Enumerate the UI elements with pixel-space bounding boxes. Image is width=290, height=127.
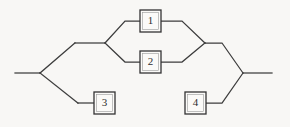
- block-3[interactable]: 3: [94, 92, 115, 114]
- diagram-canvas: 1 2 3 4: [0, 0, 290, 127]
- block-2-label: 2: [148, 55, 154, 67]
- block-1-label: 1: [148, 14, 154, 26]
- block-1[interactable]: 1: [140, 10, 161, 32]
- reliability-block-diagram: 1 2 3 4: [0, 0, 290, 127]
- block-3-label: 3: [102, 96, 108, 108]
- block-2[interactable]: 2: [140, 51, 161, 73]
- block-4-label: 4: [193, 96, 199, 108]
- block-4[interactable]: 4: [185, 92, 206, 114]
